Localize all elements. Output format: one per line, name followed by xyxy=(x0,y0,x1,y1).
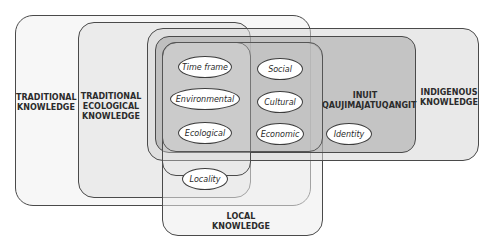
attribute-identity: Identity xyxy=(326,123,372,145)
attribute-social: Social xyxy=(257,58,303,80)
label-traditional-ecological-knowledge: TRADITIONAL ECOLOGICAL KNOWLEDGE xyxy=(80,92,142,122)
attribute-ecological: Ecological xyxy=(178,122,232,144)
attribute-time-frame: Time frame xyxy=(178,56,232,78)
attribute-locality: Locality xyxy=(182,168,228,190)
attribute-cultural: Cultural xyxy=(257,91,303,113)
label-traditional-knowledge: TRADITIONAL KNOWLEDGE xyxy=(16,93,76,113)
attribute-environmental: Environmental xyxy=(170,88,240,110)
attribute-economic: Economic xyxy=(256,123,304,145)
label-inuit-qaujimajatuqangit: INUIT QAUJIMAJATUQANGIT xyxy=(322,91,408,111)
label-local-knowledge: LOCAL KNOWLEDGE xyxy=(206,212,276,232)
label-indigenous-knowledge: INDIGENOUS KNOWLEDGE xyxy=(418,88,480,108)
